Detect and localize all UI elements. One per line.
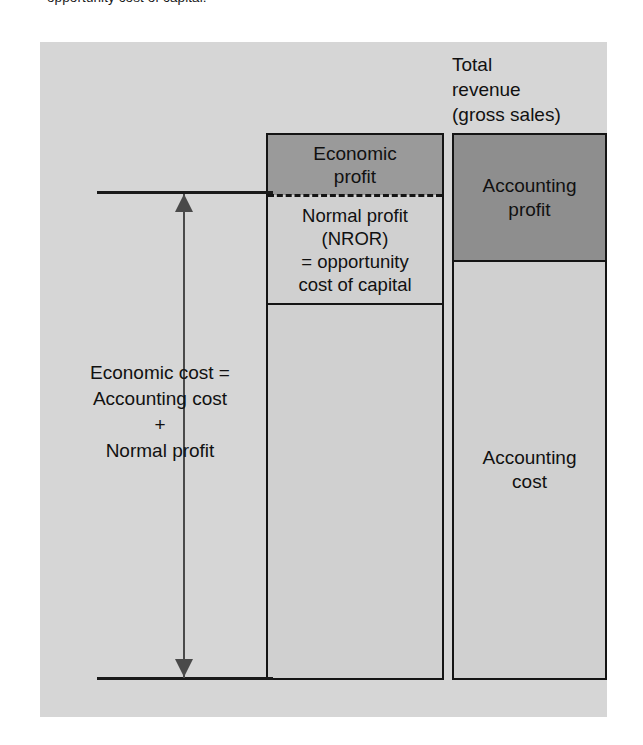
arrow-up-icon <box>175 194 193 212</box>
normal-profit-bottom-rule <box>268 303 442 305</box>
bar-segment-economic-cost-remainder <box>268 305 442 678</box>
bar-segment-economic-profit: Economic profit <box>268 135 442 195</box>
economic-profit-dashed-divider <box>268 194 442 197</box>
normal-profit-line-1: Normal profit <box>298 204 411 227</box>
economic-cost-bar: Normal profit (NROR) = opportunity cost … <box>266 133 444 680</box>
bar-segment-accounting-profit: Accounting profit <box>454 135 605 262</box>
accounting-profit-line-1: Accounting <box>482 174 576 198</box>
arrow-down-icon <box>175 659 193 677</box>
total-revenue-bar: Accounting cost Accounting profit <box>452 133 607 680</box>
bar-segment-accounting-cost: Accounting cost <box>454 262 605 678</box>
total-revenue-heading-line-3: (gross sales) <box>452 102 561 127</box>
normal-profit-line-3: = opportunity <box>298 250 411 273</box>
total-revenue-heading: Total revenue (gross sales) <box>452 52 561 127</box>
caption-text: opportunity cost of capital. <box>47 0 207 5</box>
figure-panel: Total revenue (gross sales) Normal profi… <box>40 42 607 717</box>
bar-segment-normal-profit: Normal profit (NROR) = opportunity cost … <box>268 195 442 305</box>
economic-cost-equation-line-3: + <box>50 412 270 438</box>
normal-profit-line-4: cost of capital <box>298 273 411 296</box>
total-revenue-heading-line-1: Total <box>452 52 561 77</box>
economic-cost-equation-line-2: Accounting cost <box>50 386 270 412</box>
economic-cost-equation-line-4: Normal profit <box>50 438 270 464</box>
accounting-cost-line-2: cost <box>482 470 576 494</box>
normal-profit-line-2: (NROR) <box>298 227 411 250</box>
economic-cost-equation-line-1: Economic cost = <box>50 360 270 386</box>
economic-profit-line-1: Economic <box>313 142 396 165</box>
measure-bottom-rule <box>97 677 273 680</box>
total-revenue-heading-line-2: revenue <box>452 77 561 102</box>
accounting-profit-line-2: profit <box>482 198 576 222</box>
accounting-cost-line-1: Accounting <box>482 446 576 470</box>
economic-profit-line-2: profit <box>313 165 396 188</box>
economic-cost-equation-label: Economic cost = Accounting cost + Normal… <box>50 360 270 464</box>
